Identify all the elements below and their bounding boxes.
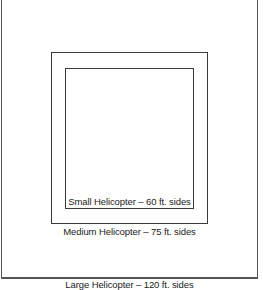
large-helicopter-label: Large Helicopter – 120 ft. sides <box>1 279 258 290</box>
medium-helicopter-label: Medium Helicopter – 75 ft. sides <box>51 226 208 237</box>
small-helicopter-label: Small Helicopter – 60 ft. sides <box>65 196 194 207</box>
small-helicopter-zone <box>65 68 194 209</box>
